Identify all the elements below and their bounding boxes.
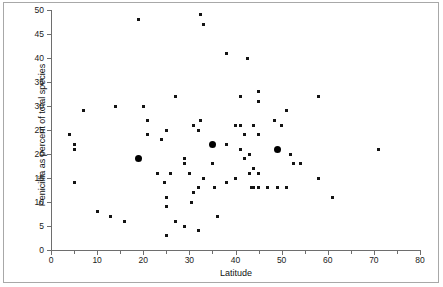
x-tick-minor xyxy=(166,251,167,254)
data-point xyxy=(165,205,168,208)
data-point xyxy=(73,148,76,151)
data-point xyxy=(211,162,214,165)
x-tick-minor xyxy=(305,251,306,254)
x-tick-minor xyxy=(74,251,75,254)
data-point xyxy=(165,129,168,132)
data-point xyxy=(257,186,260,189)
data-point xyxy=(248,172,251,175)
data-point xyxy=(190,201,193,204)
data-point xyxy=(252,124,255,127)
data-point xyxy=(225,181,228,184)
x-tick-label: 30 xyxy=(185,256,194,265)
data-point xyxy=(257,133,260,136)
data-point-highlighted xyxy=(274,146,281,153)
x-tick-minor xyxy=(212,251,213,254)
data-point xyxy=(109,215,112,218)
data-point xyxy=(239,124,242,127)
data-point xyxy=(156,172,159,175)
data-point xyxy=(197,186,200,189)
data-point xyxy=(273,119,276,122)
data-point xyxy=(123,220,126,223)
y-tick xyxy=(47,202,51,203)
data-point xyxy=(165,196,168,199)
data-point xyxy=(202,177,205,180)
data-point xyxy=(137,18,140,21)
data-point xyxy=(234,124,237,127)
data-point xyxy=(285,109,288,112)
data-point xyxy=(246,57,249,60)
data-point xyxy=(257,100,260,103)
data-point xyxy=(216,215,219,218)
data-point xyxy=(280,124,283,127)
data-point xyxy=(292,162,295,165)
data-point xyxy=(225,143,228,146)
data-point xyxy=(225,52,228,55)
data-point xyxy=(169,172,172,175)
data-point xyxy=(289,153,292,156)
data-point xyxy=(257,90,260,93)
data-point xyxy=(192,124,195,127)
data-point xyxy=(285,186,288,189)
data-point-highlighted xyxy=(135,155,142,162)
data-point xyxy=(183,157,186,160)
data-point xyxy=(146,133,149,136)
data-point xyxy=(377,148,380,151)
data-point xyxy=(160,138,163,141)
y-tick-label: 0 xyxy=(24,246,44,255)
scatter-plot-figure: 01020304050607080 05101520253035404550 L… xyxy=(0,0,443,287)
data-point xyxy=(183,162,186,165)
data-point xyxy=(183,225,186,228)
x-tick-label: 60 xyxy=(323,256,332,265)
data-point xyxy=(299,162,302,165)
y-tick xyxy=(47,130,51,131)
data-point xyxy=(317,177,320,180)
x-tick-label: 50 xyxy=(277,256,286,265)
data-point xyxy=(192,191,195,194)
data-point xyxy=(114,105,117,108)
y-tick xyxy=(47,10,51,11)
data-point xyxy=(163,181,166,184)
x-tick-minor xyxy=(397,251,398,254)
y-axis-label: Penicillia as percent of total species xyxy=(37,45,47,225)
data-point xyxy=(68,133,71,136)
data-point xyxy=(257,172,260,175)
data-point xyxy=(197,229,200,232)
data-point xyxy=(317,95,320,98)
data-point xyxy=(243,157,246,160)
data-point xyxy=(96,210,99,213)
y-tick-label: 50 xyxy=(24,6,44,15)
data-point xyxy=(239,95,242,98)
y-tick xyxy=(47,106,51,107)
data-point xyxy=(165,234,168,237)
y-tick xyxy=(47,250,51,251)
data-point xyxy=(202,23,205,26)
x-tick-minor xyxy=(259,251,260,254)
x-tick-label: 20 xyxy=(139,256,148,265)
data-point xyxy=(266,186,269,189)
x-tick-label: 70 xyxy=(369,256,378,265)
data-point xyxy=(239,148,242,151)
data-point xyxy=(248,153,251,156)
data-point xyxy=(73,181,76,184)
x-axis-label: Latitude xyxy=(51,268,421,278)
data-point-highlighted xyxy=(209,141,216,148)
data-point xyxy=(142,105,145,108)
y-tick xyxy=(47,178,51,179)
data-point xyxy=(331,196,334,199)
data-point xyxy=(252,167,255,170)
data-point xyxy=(82,109,85,112)
data-point xyxy=(199,13,202,16)
y-tick-label: 45 xyxy=(24,30,44,39)
x-tick-label: 10 xyxy=(92,256,101,265)
y-tick xyxy=(47,34,51,35)
y-tick xyxy=(47,58,51,59)
y-tick xyxy=(47,226,51,227)
data-point xyxy=(213,186,216,189)
data-point xyxy=(276,186,279,189)
data-point xyxy=(174,220,177,223)
data-point xyxy=(146,119,149,122)
x-tick-label: 80 xyxy=(415,256,424,265)
plot-area: 01020304050607080 05101520253035404550 L… xyxy=(0,0,443,287)
data-point xyxy=(199,119,202,122)
x-tick-label: 40 xyxy=(231,256,240,265)
